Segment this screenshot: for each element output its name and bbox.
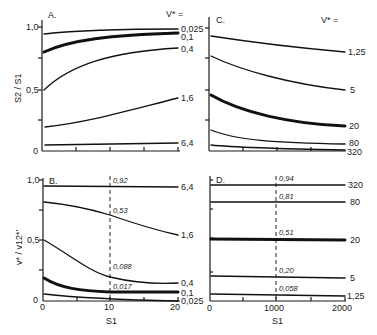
panel-d-xtick-0: 0 xyxy=(207,303,212,313)
figure: A. V* = 1,0 0,5 0 S2 / S1 0,025 0,1 0,4 … xyxy=(0,0,377,335)
series-label-a-64: 6,4 xyxy=(181,138,194,148)
series-label-d-20: 20 xyxy=(350,235,360,245)
series-label-c-125: 1,25 xyxy=(348,47,366,57)
series-label-c-320: 320 xyxy=(347,147,362,157)
panel-a-ytick-1: 1,0 xyxy=(26,22,39,32)
annotation-d-081: 0,81 xyxy=(279,192,294,201)
series-label-d-5: 5 xyxy=(350,273,355,283)
annotation-d-0058: 0,058 xyxy=(279,284,299,293)
annotation-d-094: 0,94 xyxy=(279,174,294,183)
series-label-b-64: 6,4 xyxy=(181,182,194,192)
curve-d-125 xyxy=(211,294,345,296)
panel-b: B. 1,0 0,5 0 0 10 20 S1 v* / v12*' 0,92 … xyxy=(14,175,204,326)
curve-b-16 xyxy=(44,202,178,235)
panel-a-label: A. xyxy=(48,10,57,20)
curve-b-64 xyxy=(44,186,178,187)
series-label-d-80: 80 xyxy=(350,197,360,207)
annotation-b-092: 0,92 xyxy=(113,176,128,185)
annotation-b-0017: 0,017 xyxy=(113,282,133,291)
panel-b-xtick-0: 0 xyxy=(40,302,45,312)
curve-b-0025 xyxy=(44,294,178,301)
panel-a-y-label: S2 / S1 xyxy=(13,73,23,103)
curve-c-5 xyxy=(211,56,345,90)
panel-a: A. V* = 1,0 0,5 0 S2 / S1 0,025 0,1 0,4 … xyxy=(13,9,204,156)
annotation-b-053: 0,53 xyxy=(113,206,128,215)
panel-d: D. 0 1000 2000 S1 0,94 0,81 0,51 0,20 0,… xyxy=(207,174,365,326)
panel-b-y-label: v* / v12*' xyxy=(14,229,24,265)
panel-b-label: B. xyxy=(49,176,58,186)
series-label-d-125: 1,25 xyxy=(347,291,365,301)
series-label-c-5: 5 xyxy=(350,85,355,95)
annotation-d-020: 0,20 xyxy=(279,266,294,275)
panel-a-legend-title: V* = xyxy=(166,9,183,19)
curve-c-80 xyxy=(211,130,345,144)
panel-b-ytick-0: 0 xyxy=(33,295,38,305)
panel-b-ytick-05: 0,5 xyxy=(27,235,40,245)
panel-a-ytick-0: 0 xyxy=(33,146,38,156)
curve-d-5 xyxy=(211,276,345,278)
series-label-a-04: 0,4 xyxy=(181,44,194,54)
panel-b-ytick-1: 1,0 xyxy=(27,175,40,185)
panel-d-label: D. xyxy=(216,175,225,185)
curve-d-20 xyxy=(211,239,345,240)
panel-d-xtick-1000: 1000 xyxy=(264,303,284,313)
series-label-a-01: 0,1 xyxy=(181,32,194,42)
curve-c-320 xyxy=(211,145,345,150)
series-label-b-04: 0,4 xyxy=(181,278,194,288)
panel-a-ytick-05: 0,5 xyxy=(26,85,39,95)
panel-c-label: C. xyxy=(216,15,225,25)
curve-b-01 xyxy=(44,278,178,292)
panel-c: C. V* = 1,25 5 20 80 320 xyxy=(205,15,366,157)
series-label-b-16: 1,6 xyxy=(181,230,194,240)
panel-d-x-label: S1 xyxy=(272,316,283,326)
series-label-a-16: 1,6 xyxy=(181,93,194,103)
panel-d-xtick-2000: 2000 xyxy=(332,303,352,313)
annotation-d-051: 0,51 xyxy=(279,228,294,237)
curve-a-64 xyxy=(45,143,178,145)
series-label-c-20: 20 xyxy=(349,121,359,131)
panel-b-xtick-20: 20 xyxy=(170,302,180,312)
curve-c-125 xyxy=(211,36,345,52)
curve-a-04 xyxy=(44,48,178,90)
panel-b-xtick-10: 10 xyxy=(104,302,114,312)
series-label-b-0025: 0,025 xyxy=(181,296,204,306)
panel-c-legend-title: V* = xyxy=(321,15,338,25)
series-label-d-320: 320 xyxy=(348,180,363,190)
curve-c-20 xyxy=(211,95,345,126)
curve-a-16 xyxy=(45,98,178,127)
panel-b-x-label: S1 xyxy=(106,316,117,326)
annotation-b-0088: 0,088 xyxy=(113,262,133,271)
curve-b-04 xyxy=(44,240,178,283)
